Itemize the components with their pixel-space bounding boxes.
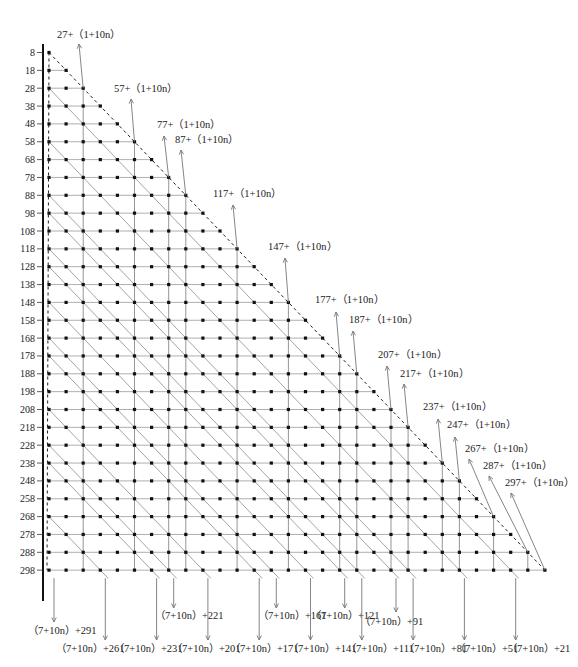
lattice-point (150, 479, 153, 482)
top-annotation-label: 297+（1+10n） (505, 477, 574, 488)
lattice-point (133, 283, 136, 286)
lattice-point (65, 122, 68, 125)
lattice-point (218, 229, 221, 232)
lattice-point (218, 265, 221, 268)
top-annotation-label: 207+（1+10n） (378, 349, 447, 360)
lattice-point (47, 122, 50, 125)
lattice-point (65, 69, 68, 72)
lattice-point (47, 533, 50, 536)
lattice-point (133, 301, 136, 304)
dashed-boundary-lines (47, 53, 545, 571)
lattice-point (321, 479, 324, 482)
lattice-point (355, 479, 358, 482)
lattice-point (270, 408, 273, 411)
lattice-point (372, 479, 375, 482)
lattice-point (47, 69, 50, 72)
lattice-point (270, 515, 273, 518)
lattice-point (389, 533, 392, 536)
lattice-point (338, 426, 341, 429)
lattice-point (116, 301, 119, 304)
lattice-point (99, 229, 102, 232)
annotation-arrow (233, 205, 237, 249)
lattice-point (82, 426, 85, 429)
lattice-point (82, 551, 85, 554)
lattice-point (475, 533, 478, 536)
lattice-point (65, 229, 68, 232)
lattice-point (389, 569, 392, 572)
diagonal-line (49, 356, 262, 579)
row-label: 88 (25, 190, 35, 201)
lattice-point (253, 337, 256, 340)
lattice-point (82, 354, 85, 357)
lattice-point (133, 265, 136, 268)
row-label: 228 (20, 440, 35, 451)
lattice-point (236, 319, 239, 322)
row-label: 108 (20, 226, 35, 237)
lattice-point (65, 426, 68, 429)
lattice-point (82, 194, 85, 197)
annotation-arrow (455, 437, 459, 481)
lattice-point (99, 426, 102, 429)
lattice-point (65, 569, 68, 572)
lattice-point (65, 87, 68, 90)
lattice-point (184, 265, 187, 268)
lattice-point (99, 354, 102, 357)
lattice-point (287, 444, 290, 447)
lattice-point (201, 479, 204, 482)
lattice-point (304, 408, 307, 411)
lattice-point (116, 444, 119, 447)
left-dashed-line (47, 53, 49, 571)
lattice-point (236, 301, 239, 304)
lattice-point (150, 390, 153, 393)
lattice-point (116, 461, 119, 464)
lattice-point (150, 319, 153, 322)
lattice-point (99, 265, 102, 268)
lattice-point (372, 390, 375, 393)
lattice-point (304, 533, 307, 536)
lattice-point (47, 337, 50, 340)
lattice-point (116, 515, 119, 518)
lattice-point (424, 551, 427, 554)
lattice-point (167, 497, 170, 500)
lattice-point (372, 426, 375, 429)
lattice-point (150, 283, 153, 286)
diagonal-line (49, 267, 348, 579)
lattice-point (236, 426, 239, 429)
lattice-point (270, 461, 273, 464)
lattice-point (116, 354, 119, 357)
lattice-point (133, 354, 136, 357)
lattice-point (167, 212, 170, 215)
diagonal-line (49, 142, 467, 579)
lattice-point (441, 533, 444, 536)
lattice-point (407, 497, 410, 500)
lattice-point (167, 337, 170, 340)
lattice-point (133, 533, 136, 536)
lattice-point (458, 551, 461, 554)
top-annotation-label: 117+（1+10n） (213, 188, 281, 199)
lattice-point (304, 569, 307, 572)
lattice-point (270, 337, 273, 340)
lattice-point (201, 229, 204, 232)
lattice-point (167, 283, 170, 286)
lattice-point (47, 354, 50, 357)
lattice-point (116, 408, 119, 411)
row-label: 8 (30, 47, 35, 58)
lattice-point (287, 551, 290, 554)
lattice-point (355, 551, 358, 554)
lattice-point (526, 569, 529, 572)
lattice-point (47, 265, 50, 268)
annotation-arrow (353, 331, 357, 374)
lattice-point (133, 194, 136, 197)
lattice-point (304, 479, 307, 482)
lattice-point (218, 533, 221, 536)
lattice-point (218, 569, 221, 572)
lattice-point (150, 158, 153, 161)
lattice-point (133, 337, 136, 340)
lattice-point (65, 497, 68, 500)
lattice-point (116, 158, 119, 161)
lattice-point (47, 372, 50, 375)
lattice-point (338, 497, 341, 500)
lattice-point (253, 265, 256, 268)
top-annotation-label: 237+（1+10n） (423, 401, 492, 412)
lattice-point (236, 408, 239, 411)
